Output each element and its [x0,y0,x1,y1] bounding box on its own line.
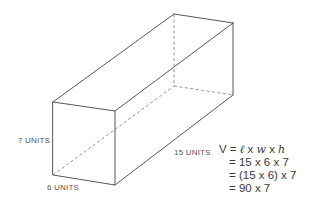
hidden-bottom-left-edge [53,86,174,175]
formula-times: x [266,143,278,155]
visible-edges [53,14,233,185]
top-left-edge [53,14,174,102]
formula-line-1: V = ℓ x w x h [219,143,296,156]
width-label: 6 UNITS [47,183,79,192]
formula-height-symbol: h [278,143,285,156]
bottom-right-edge [115,95,233,185]
formula-times: x [244,143,256,155]
volume-formula: V = ℓ x w x h = 15 x 6 x 7 = (15 x 6) x … [219,143,296,195]
formula-line-3: = (15 x 6) x 7 [219,169,296,182]
formula-line-2: = 15 x 6 x 7 [219,156,296,169]
front-face [53,102,115,185]
hidden-back-bottom-edge [174,86,233,95]
formula-width-symbol: w [257,143,266,156]
length-label: 15 UNITS [174,148,211,157]
formula-v-equals: V = [219,143,240,155]
formula-line-4: = 90 x 7 [219,182,296,195]
top-back-edge [174,14,233,23]
height-label: 7 UNITS [18,136,50,145]
